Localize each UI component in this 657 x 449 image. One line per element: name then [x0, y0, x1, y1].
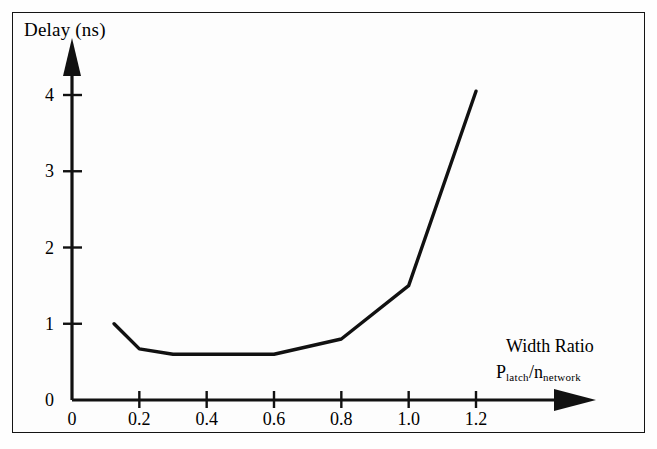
y-tick-label: 2 [32, 239, 54, 257]
x-tick-label: 0.8 [318, 410, 364, 428]
y-tick-label: 3 [32, 162, 54, 180]
y-tick-label: 0 [32, 391, 54, 409]
y-tick-label: 1 [32, 315, 54, 333]
x-tick-label: 1.0 [386, 410, 432, 428]
x-tick-label: 1.2 [453, 410, 499, 428]
x-tick-label: 0.2 [116, 410, 162, 428]
y-axis-arrow-icon [63, 38, 81, 76]
x-tick-label: 0.4 [184, 410, 230, 428]
y-tick-label: 4 [32, 86, 54, 104]
data-series-line [114, 91, 476, 354]
figure-canvas: Delay (ns) Width Ratio Platch/nnetwork 0… [0, 0, 657, 449]
x-tick-label: 0.6 [251, 410, 297, 428]
axes-group [63, 38, 596, 411]
plot-area [0, 0, 657, 449]
x-axis-arrow-icon [554, 389, 596, 411]
x-tick-label: 0 [49, 410, 95, 428]
